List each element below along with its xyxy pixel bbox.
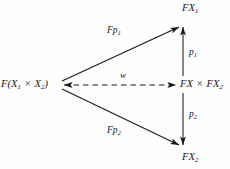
edge-fp2	[62, 89, 179, 145]
node-label-fx2: FX2	[182, 152, 198, 163]
edge-label-fp1: Fp1	[107, 26, 121, 36]
edge-label-fp2: Fp2	[107, 126, 121, 136]
edge-label-p2: p2	[189, 110, 197, 120]
node-label-product: FX × FX2	[180, 79, 223, 90]
edge-label-w: w	[120, 71, 126, 80]
node-label-fx1: FX1	[182, 3, 198, 14]
commutative-diagram: F(X1 × X2) FX × FX2 FX1 FX2 Fp1 Fp2 p1 p…	[0, 0, 230, 169]
node-label-source: F(X1 × X2)	[1, 79, 48, 90]
edge-label-p1: p1	[189, 48, 197, 58]
